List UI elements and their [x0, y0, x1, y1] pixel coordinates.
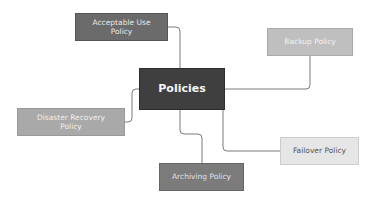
branch-node-archiving[interactable]: Archiving Policy — [159, 163, 244, 191]
connector-archiving — [180, 110, 202, 163]
connector-failover — [223, 110, 280, 151]
branch-label: Archiving Policy — [172, 172, 231, 181]
connector-dr — [125, 89, 139, 122]
central-topic-label: Policies — [158, 82, 205, 96]
central-topic-node[interactable]: Policies — [139, 68, 225, 110]
branch-node-failover[interactable]: Failover Policy — [280, 137, 359, 165]
branch-node-disaster-recovery[interactable]: Disaster Recovery Policy — [17, 108, 125, 136]
branch-label: Acceptable Use Policy — [87, 18, 157, 37]
branch-node-backup[interactable]: Backup Policy — [267, 28, 353, 56]
connector-aup — [168, 27, 180, 68]
branch-label: Disaster Recovery Policy — [31, 113, 111, 132]
branch-node-acceptable-use[interactable]: Acceptable Use Policy — [75, 13, 168, 41]
branch-label: Failover Policy — [293, 146, 346, 155]
connector-backup — [225, 56, 310, 89]
branch-label: Backup Policy — [284, 37, 335, 46]
